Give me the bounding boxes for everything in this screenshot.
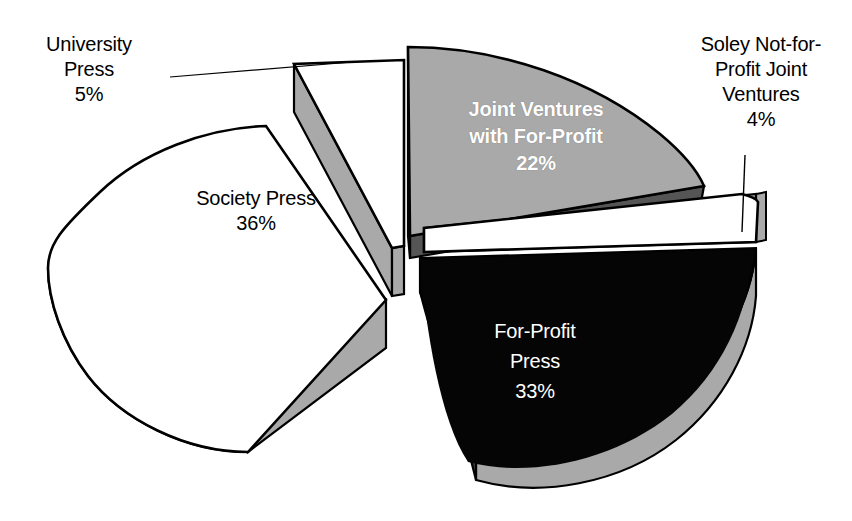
slice-label-university-press: University Press 5%	[14, 32, 164, 107]
slice-label-soley-not-for-profit: Soley Not-for- Profit Joint Ventures 4%	[672, 32, 850, 132]
slice-university-press-side-right	[392, 246, 404, 296]
slice-label-for-profit-press: For-Profit Press 33%	[430, 316, 640, 406]
pie-chart-figure: University Press 5% Soley Not-for- Profi…	[0, 0, 852, 521]
slice-label-joint-ventures: Joint Ventures with For-Profit 22%	[418, 96, 654, 177]
slice-label-society-press: Society Press 36%	[146, 186, 366, 236]
